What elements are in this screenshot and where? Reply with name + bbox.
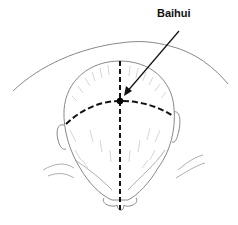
left-hand: [43, 164, 74, 178]
baihui-label: Baihui: [157, 7, 191, 19]
right-hand: [176, 155, 205, 178]
baihui-point: [117, 98, 123, 104]
baihui-diagram: Baihui: [0, 0, 238, 225]
head-illustration: [0, 0, 238, 225]
